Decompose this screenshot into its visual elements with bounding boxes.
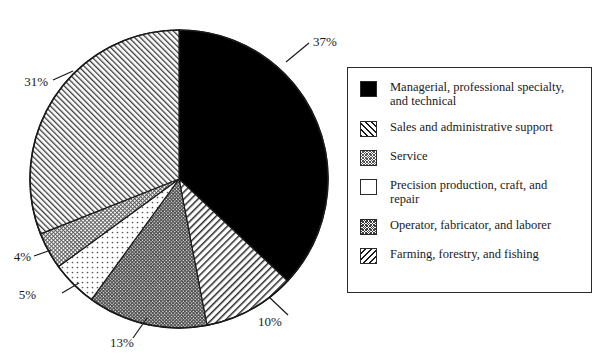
pie-label-4: 4% bbox=[14, 249, 32, 264]
pie-chart-figure: 37%10%13%5%4%31% Managerial, professiona… bbox=[0, 0, 596, 358]
leader-line-37 bbox=[286, 43, 309, 62]
legend-item-precision[interactable]: Precision production, craft, and repair bbox=[360, 178, 581, 206]
legend-item-managerial[interactable]: Managerial, professional specialty, and … bbox=[360, 80, 581, 108]
solid-black-swatch-icon bbox=[360, 81, 377, 97]
pie-label-10: 10% bbox=[258, 314, 282, 329]
pie-label-5: 5% bbox=[19, 287, 37, 302]
legend-item-label: Farming, forestry, and fishing bbox=[390, 247, 539, 261]
legend-item-sales[interactable]: Sales and administrative support bbox=[360, 120, 581, 137]
legend-item-label: Precision production, craft, and repair bbox=[390, 178, 547, 206]
fine-cross-hatch-swatch-icon bbox=[360, 150, 377, 166]
legend-item-operator[interactable]: Operator, fabricator, and laborer bbox=[360, 218, 581, 235]
pie-label-37: 37% bbox=[313, 34, 337, 49]
pie-label-31: 31% bbox=[24, 74, 48, 89]
backward-hatch-swatch-icon bbox=[360, 248, 377, 264]
sparse-dots-swatch-icon bbox=[360, 179, 377, 195]
legend-item-service[interactable]: Service bbox=[360, 149, 581, 166]
chart-legend: Managerial, professional specialty, and … bbox=[347, 67, 592, 293]
pie-label-13: 13% bbox=[110, 335, 134, 350]
leader-line-4 bbox=[34, 250, 51, 256]
legend-item-label: Operator, fabricator, and laborer bbox=[390, 218, 551, 232]
leader-line-10 bbox=[269, 297, 288, 315]
forward-hatch-swatch-icon bbox=[360, 121, 377, 137]
legend-item-label: Managerial, professional specialty, and … bbox=[390, 80, 564, 108]
legend-item-label: Sales and administrative support bbox=[390, 120, 553, 134]
legend-item-farming[interactable]: Farming, forestry, and fishing bbox=[360, 247, 581, 264]
legend-item-label: Service bbox=[390, 149, 427, 163]
dense-cross-hatch-swatch-icon bbox=[360, 219, 377, 235]
